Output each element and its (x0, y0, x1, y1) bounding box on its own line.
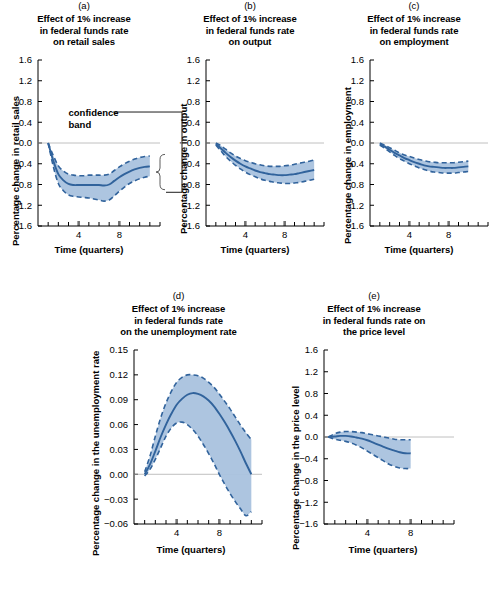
x-tick-label: 8 (408, 527, 413, 538)
y-tick-label: 1.2 (305, 366, 318, 377)
panel-e-svg: 1.61.20.80.40.0−0.4−0.8−1.2−1.648 (282, 338, 466, 563)
y-tick-label: 0.0 (305, 431, 318, 442)
y-tick-label: −0.06 (104, 518, 128, 529)
panel-a-title-line1: Effect of 1% increase (0, 13, 168, 25)
confidence-band-fill (48, 143, 150, 201)
annotation-line-2: band (69, 119, 92, 130)
y-tick-label: 1.2 (19, 75, 32, 86)
panel-c-ylabel: Percentage change in employment (342, 87, 353, 244)
panel-e-title: Effect of 1% increase in federal funds r… (282, 303, 466, 338)
panel-a-title-line3: on retail sales (0, 36, 168, 48)
x-tick-label: 8 (446, 229, 451, 240)
x-tick-label: 4 (174, 527, 179, 538)
panel-b-ylabel: Percentage change in output (178, 103, 189, 233)
panel-e: (e) Effect of 1% increase in federal fun… (282, 290, 466, 588)
x-tick-label: 4 (76, 229, 81, 240)
panel-d-xlabel: Time (quarters) (116, 544, 266, 555)
y-tick-label: 0.00 (110, 468, 129, 479)
y-tick-label: 1.6 (351, 54, 364, 65)
panel-b-title-line3: on output (168, 36, 332, 48)
panel-c: (c) Effect of 1% increase in federal fun… (332, 0, 496, 278)
x-tick-label: 4 (365, 527, 370, 538)
panel-b: (b) Effect of 1% increase in federal fun… (168, 0, 332, 278)
panel-c-letter: (c) (332, 0, 496, 12)
panel-c-title-line1: Effect of 1% increase (332, 13, 496, 25)
y-tick-label: 1.6 (305, 344, 318, 355)
x-tick-label: 8 (117, 229, 122, 240)
panel-c-title-line2: in federal funds rate (332, 25, 496, 37)
y-tick-label: 0.8 (305, 388, 318, 399)
panel-d-title-line2: in federal funds rate (86, 315, 271, 327)
panel-d: (d) Effect of 1% increase in federal fun… (86, 290, 271, 588)
x-tick-label: 8 (282, 229, 287, 240)
x-tick-label: 4 (407, 229, 412, 240)
panel-row-bottom: (d) Effect of 1% increase in federal fun… (0, 290, 496, 613)
panel-c-title-line3: on employment (332, 36, 496, 48)
panel-c-plot: 1.61.20.80.40.0−0.4−0.8−1.2−1.648 Percen… (332, 48, 496, 278)
panel-b-title-line1: Effect of 1% increase (168, 13, 332, 25)
panel-d-title-line1: Effect of 1% increase (86, 303, 271, 315)
panel-a-title-line2: in federal funds rate (0, 25, 168, 37)
y-tick-label: −0.4 (299, 453, 318, 464)
x-tick-label: 4 (243, 229, 248, 240)
panel-e-xlabel: Time (quarters) (308, 544, 458, 555)
panel-a-plot: 1.61.20.80.40.0−0.4−0.8−1.2−1.648confide… (0, 48, 168, 278)
panel-c-xlabel: Time (quarters) (346, 244, 492, 255)
y-tick-label: 1.2 (187, 75, 200, 86)
confidence-band-fill (216, 143, 314, 184)
y-tick-label: 0.03 (110, 444, 129, 455)
y-tick-label: −1.2 (299, 496, 318, 507)
panel-e-title-line1: Effect of 1% increase (282, 303, 466, 315)
panel-d-svg: 0.150.120.090.060.030.00−0.03−0.0648 (86, 338, 271, 563)
panel-c-title: Effect of 1% increase in federal funds r… (332, 13, 496, 48)
y-tick-label: 0.12 (110, 369, 129, 380)
panel-b-letter: (b) (168, 0, 332, 12)
panel-d-title-line3: on the unemployment rate (86, 326, 271, 338)
y-tick-label: 1.6 (187, 54, 200, 65)
panel-e-title-line2: in federal funds rate on (282, 315, 466, 327)
annotation-line-1: confidence (69, 107, 119, 118)
y-tick-label: 0.09 (110, 394, 129, 405)
panel-d-letter: (d) (86, 290, 271, 302)
confidence-band-fill (145, 374, 252, 515)
panel-a: (a) Effect of 1% increase in federal fun… (0, 0, 168, 278)
panel-e-title-line3: the price level (282, 326, 466, 338)
y-tick-label: −0.8 (299, 475, 318, 486)
panel-c-svg: 1.61.20.80.40.0−0.4−0.8−1.2−1.648 (332, 48, 496, 263)
panel-d-title: Effect of 1% increase in federal funds r… (86, 303, 271, 338)
panel-a-svg: 1.61.20.80.40.0−0.4−0.8−1.2−1.648confide… (0, 48, 168, 263)
panel-row-top: (a) Effect of 1% increase in federal fun… (0, 0, 496, 290)
y-tick-label: −1.6 (299, 518, 318, 529)
annotation-brace (156, 154, 165, 189)
panel-a-title: Effect of 1% increase in federal funds r… (0, 13, 168, 48)
panel-b-xlabel: Time (quarters) (182, 244, 328, 255)
panel-a-ylabel: Percentage change in retail sales (10, 96, 21, 246)
panel-d-plot: 0.150.120.090.060.030.00−0.03−0.0648 Per… (86, 338, 271, 588)
panel-e-letter: (e) (282, 290, 466, 302)
y-tick-label: 1.2 (351, 75, 364, 86)
panel-b-title: Effect of 1% increase in federal funds r… (168, 13, 332, 48)
figure-root: (a) Effect of 1% increase in federal fun… (0, 0, 496, 613)
panel-e-plot: 1.61.20.80.40.0−0.4−0.8−1.2−1.648 Percen… (282, 338, 466, 588)
panel-b-svg: 1.61.20.80.40.0−0.4−0.8−1.2−1.648 (168, 48, 332, 263)
x-tick-label: 8 (217, 527, 222, 538)
y-tick-label: 0.06 (110, 419, 129, 430)
y-tick-label: −0.03 (104, 493, 128, 504)
y-tick-label: 0.4 (305, 409, 318, 420)
panel-e-ylabel: Percentage change in the price level (290, 386, 301, 550)
panel-d-ylabel: Percentage change in the unemployment ra… (90, 350, 101, 555)
y-tick-label: 0.15 (110, 344, 129, 355)
y-tick-label: 1.6 (19, 54, 32, 65)
panel-b-title-line2: in federal funds rate (168, 25, 332, 37)
panel-b-plot: 1.61.20.80.40.0−0.4−0.8−1.2−1.648 Percen… (168, 48, 332, 278)
panel-a-letter: (a) (0, 0, 168, 12)
panel-a-xlabel: Time (quarters) (14, 244, 164, 255)
